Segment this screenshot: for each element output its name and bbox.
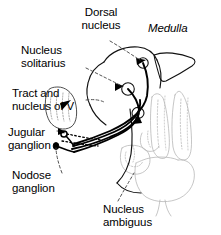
label-jugular-ganglion: Jugular ganglion — [8, 126, 51, 152]
leader-dorsal-nucleus — [110, 41, 140, 60]
anatomical-figure: Dorsal nucleus Medulla Nucleus solitariu… — [0, 0, 221, 235]
leader-nodose-ganglion — [56, 148, 62, 173]
label-tract-and-nucleus-of-v: Tract and nucleus of V — [12, 87, 74, 113]
label-nucleus-solitarius: Nucleus solitarius — [21, 44, 65, 70]
label-medulla: Medulla — [148, 22, 188, 35]
upper-faint-cluster — [140, 131, 159, 151]
medulla-illustration — [0, 0, 221, 235]
label-dorsal-nucleus: Dorsal nucleus — [61, 6, 141, 32]
medulla-outline — [87, 47, 161, 193]
label-nucleus-ambiguus: Nucleus ambiguus — [103, 203, 152, 229]
leader-nucleus-solitarius — [86, 68, 122, 86]
label-nodose-ganglion: Nodose ganglion — [12, 169, 55, 195]
